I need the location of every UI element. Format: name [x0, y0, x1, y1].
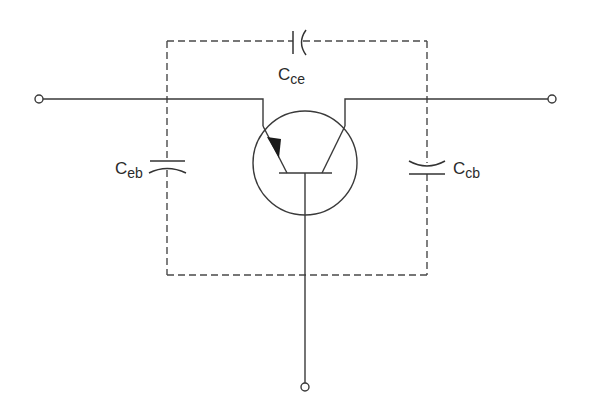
circuit-diagram: Cce Ceb Ccb [0, 0, 589, 410]
label-ccb: Ccb [453, 159, 480, 181]
emitter-lead [43, 99, 263, 126]
terminal-bottom [301, 383, 309, 391]
label-cce: Cce [278, 65, 305, 87]
collector-lead [345, 99, 548, 126]
terminals [35, 95, 556, 391]
label-ceb: Ceb [115, 159, 143, 181]
capacitor-cce [293, 30, 306, 55]
cce-curved-plate [302, 30, 307, 55]
emitter-arrow-icon [267, 137, 281, 158]
leads [43, 99, 548, 383]
ccb-curved-plate [409, 161, 445, 166]
terminal-right [548, 95, 556, 103]
collector-line [322, 126, 345, 173]
terminal-left [35, 95, 43, 103]
